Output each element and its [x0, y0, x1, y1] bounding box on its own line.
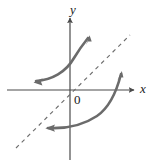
exponential-curve [34, 35, 92, 85]
exponential-curve-arrowhead-left [34, 78, 43, 85]
x-axis-label: x [140, 82, 146, 95]
logarithmic-curve-path [48, 74, 121, 128]
origin-label: 0 [74, 93, 81, 106]
exponential-curve-path [36, 38, 88, 81]
identity-line-y-equals-x [16, 35, 130, 148]
graph-canvas [0, 0, 153, 163]
y-axis-label: y [70, 3, 76, 16]
math-figure: y x 0 [0, 0, 153, 163]
